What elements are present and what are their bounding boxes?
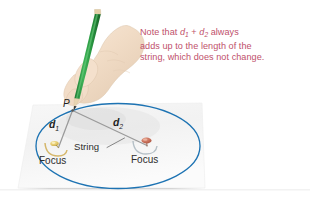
annotation-note: Note that d1 + d2 always adds up to the …: [140, 27, 308, 64]
label-string: String: [74, 141, 99, 152]
figure-canvas: Note that d1 + d2 always adds up to the …: [0, 0, 310, 204]
pencil-eraser-end: [95, 10, 101, 15]
point-p-marker: [71, 109, 74, 112]
note-line1-post: always: [208, 27, 239, 37]
annotation-note-line-1: Note that d1 + d2 always: [140, 27, 308, 41]
label-d2-sub: 2: [119, 123, 123, 130]
annotation-note-line-3: string, which does not change.: [140, 52, 308, 64]
label-d2: d2: [113, 117, 123, 130]
label-d1: d1: [49, 119, 59, 132]
label-focus-right: Focus: [131, 154, 158, 165]
label-focus-left: Focus: [39, 155, 66, 166]
annotation-note-line-2: adds up to the length of the: [140, 41, 308, 53]
label-point-p: P: [63, 98, 70, 109]
label-d1-sub: 1: [55, 125, 59, 132]
note-line1-mid: +: [189, 27, 200, 37]
note-line1-pre: Note that: [140, 27, 180, 37]
desk-edge-line: [0, 188, 310, 190]
